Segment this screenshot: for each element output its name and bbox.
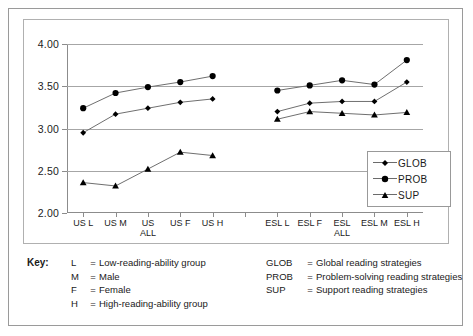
data-point-marker	[113, 111, 119, 117]
y-axis-tick-label: 3.00	[38, 123, 59, 135]
prob-marker-icon	[372, 172, 398, 186]
key-equals-sign: =	[304, 270, 316, 284]
data-point-marker	[339, 77, 345, 83]
key-description: Female	[99, 283, 271, 297]
key-row: M=Male	[71, 270, 271, 284]
chart-legend: GLOB PROB SUP	[367, 151, 451, 207]
y-axis-tick	[62, 213, 67, 214]
key-abbreviation: L	[71, 256, 87, 270]
data-point-marker	[307, 82, 313, 88]
legend-label-sup: SUP	[398, 190, 419, 201]
data-point-marker	[274, 109, 280, 115]
data-point-marker	[403, 109, 410, 115]
data-point-marker	[210, 73, 216, 79]
key-equals-sign: =	[87, 283, 99, 297]
data-point-marker	[80, 105, 86, 111]
key-description: Low-reading-ability group	[99, 256, 271, 270]
x-axis-tick	[374, 213, 375, 217]
x-axis-tick	[180, 213, 181, 217]
x-axis-tick	[213, 213, 214, 217]
chart-panel: 2.002.503.003.504.00 US LUS MUSALLUS FUS…	[23, 19, 449, 244]
key-row: F=Female	[71, 283, 271, 297]
y-axis-tick-label: 4.00	[38, 38, 59, 50]
x-axis-tick	[277, 213, 278, 217]
key-abbreviation: F	[71, 283, 87, 297]
data-point-marker	[112, 90, 118, 96]
glob-marker-icon	[372, 156, 398, 170]
data-point-marker	[177, 99, 183, 105]
data-point-marker	[210, 96, 216, 102]
key-abbreviation: PROB	[266, 270, 304, 284]
data-point-marker	[80, 179, 87, 185]
key-column-strategies: GLOB=Global reading strategiesPROB=Probl…	[266, 256, 451, 297]
key-column-abbreviations: L=Low-reading-ability groupM=MaleF=Femal…	[71, 256, 271, 310]
key-row: SUP=Support reading strategies	[266, 283, 451, 297]
y-axis-tick-label: 2.50	[38, 165, 59, 177]
x-axis-tick	[342, 213, 343, 217]
x-axis-tick	[310, 213, 311, 217]
key-description: Male	[99, 270, 271, 284]
x-axis-tick-label: ESLALL	[334, 218, 351, 238]
data-point-marker	[177, 149, 184, 155]
key-row: L=Low-reading-ability group	[71, 256, 271, 270]
x-axis-tick-label: US H	[202, 218, 224, 228]
x-axis-tick-label: ESL L	[265, 218, 289, 228]
data-point-marker	[80, 130, 86, 136]
legend-label-prob: PROB	[398, 174, 428, 185]
data-point-marker	[177, 79, 183, 85]
key-description: Global reading strategies	[316, 256, 451, 270]
key-row: H=High-reading-ability group	[71, 297, 271, 311]
data-point-marker	[145, 105, 151, 111]
x-axis-tick	[116, 213, 117, 217]
data-point-marker	[339, 99, 345, 105]
sup-marker-icon	[372, 188, 398, 202]
legend-label-glob: GLOB	[398, 158, 427, 169]
x-axis-tick-label: US F	[170, 218, 191, 228]
data-point-marker	[372, 99, 378, 105]
x-axis-tick-label: ESL F	[297, 218, 322, 228]
key-equals-sign: =	[87, 256, 99, 270]
key-description: Support reading strategies	[316, 283, 451, 297]
legend-item-glob: GLOB	[372, 155, 446, 171]
legend-item-sup: SUP	[372, 187, 446, 203]
key-equals-sign: =	[87, 297, 99, 311]
x-axis-tick	[148, 213, 149, 217]
data-point-marker	[145, 84, 151, 90]
series-glob	[80, 79, 409, 136]
x-axis-tick-label: US L	[73, 218, 93, 228]
data-point-marker	[404, 79, 410, 85]
x-axis-tick-label: USALL	[140, 218, 156, 238]
key-row: GLOB=Global reading strategies	[266, 256, 451, 270]
key-row: PROB=Problem-solving reading strategies	[266, 270, 451, 284]
series-line	[83, 76, 212, 108]
key-abbreviation: M	[71, 270, 87, 284]
key-title: Key:	[27, 257, 49, 268]
x-axis-tick	[407, 213, 408, 217]
x-axis-tick-label: ESL M	[361, 218, 388, 228]
figure-frame: 2.002.503.003.504.00 US LUS MUSALLUS FUS…	[8, 8, 463, 326]
key-equals-sign: =	[304, 283, 316, 297]
data-point-marker	[371, 81, 377, 87]
key-abbreviation: GLOB	[266, 256, 304, 270]
data-point-marker	[307, 100, 313, 106]
data-point-marker	[306, 108, 313, 114]
y-axis-tick-label: 3.50	[38, 80, 59, 92]
legend-item-prob: PROB	[372, 171, 446, 187]
data-point-marker	[404, 57, 410, 63]
key-abbreviation: SUP	[266, 283, 304, 297]
x-axis-tick	[83, 213, 84, 217]
series-sup	[80, 108, 410, 188]
x-axis-tick-label: ESL H	[394, 218, 420, 228]
key-description: High-reading-ability group	[99, 297, 271, 311]
key-description: Problem-solving reading strategies	[316, 270, 462, 284]
key-block: Key: L=Low-reading-ability groupM=MaleF=…	[23, 254, 449, 316]
data-point-marker	[145, 166, 152, 172]
key-equals-sign: =	[87, 270, 99, 284]
data-point-marker	[274, 87, 280, 93]
series-line	[277, 60, 406, 90]
series-line	[277, 82, 406, 112]
key-equals-sign: =	[304, 256, 316, 270]
key-abbreviation: H	[71, 297, 87, 311]
series-prob	[80, 57, 410, 111]
series-line	[83, 99, 212, 133]
